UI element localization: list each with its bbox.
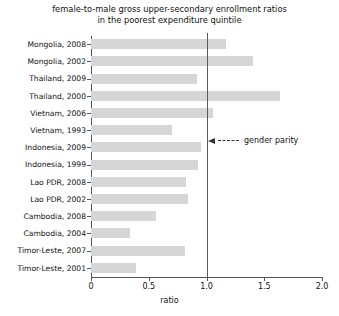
y-axis-tick (87, 216, 91, 217)
bar (91, 246, 185, 256)
y-axis-tick (87, 113, 91, 114)
dashed-leader-line (218, 140, 239, 141)
bar (91, 194, 188, 204)
bar (91, 91, 280, 101)
x-axis-tick (207, 277, 208, 281)
x-axis-tick (264, 277, 265, 281)
y-axis-tick-label: Lao PDR, 2002 (0, 195, 86, 204)
bar (91, 56, 253, 66)
bar (91, 74, 197, 84)
bar (91, 228, 130, 238)
y-axis-tick-label: Lao PDR, 2008 (0, 178, 86, 187)
chart-title-line-1: female-to-male gross upper-secondary enr… (0, 4, 339, 15)
y-axis-tick (87, 251, 91, 252)
bar (91, 39, 226, 49)
x-axis-tick-label: 1.5 (249, 282, 279, 291)
x-axis-tick-label: 0 (76, 282, 106, 291)
y-axis-tick-label: Mongolia, 2008 (0, 40, 86, 49)
x-axis-tick-label: 0.5 (134, 282, 164, 291)
x-axis-tick (322, 277, 323, 281)
bar (91, 142, 201, 152)
y-axis-tick-label: Thailand, 2000 (0, 92, 86, 101)
bar (91, 177, 186, 187)
y-axis-tick (87, 130, 91, 131)
bar (91, 125, 172, 135)
y-axis-tick-label: Cambodia, 2008 (0, 212, 86, 221)
y-axis-tick-label: Mongolia, 2002 (0, 57, 86, 66)
y-axis-tick-label: Indonesia, 2009 (0, 143, 86, 152)
y-axis-tick-label: Cambodia, 2004 (0, 229, 86, 238)
bar (91, 263, 136, 273)
y-axis-tick-label: Thailand, 2009 (0, 74, 86, 83)
x-axis-label: ratio (0, 296, 339, 305)
gender-parity-label: gender parity (244, 136, 298, 145)
y-axis-tick-label: Vietnam, 1993 (0, 126, 86, 135)
bar (91, 211, 156, 221)
x-axis-tick (91, 277, 92, 281)
y-axis-tick-label: Timor-Leste, 2001 (0, 264, 86, 273)
y-axis-tick (87, 79, 91, 80)
y-axis-tick (87, 44, 91, 45)
chart-container: female-to-male gross upper-secondary enr… (0, 0, 339, 316)
chart-title-line-2: in the poorest expenditure quintile (0, 15, 339, 26)
gender-parity-annotation: gender parity (210, 136, 298, 145)
x-axis-tick-label: 1.0 (192, 282, 222, 291)
y-axis-tick (87, 165, 91, 166)
chart-title: female-to-male gross upper-secondary enr… (0, 4, 339, 26)
y-axis-tick (87, 182, 91, 183)
x-axis-tick-label: 2.0 (307, 282, 337, 291)
bar (91, 108, 213, 118)
bar (91, 160, 198, 170)
arrow-left-icon (208, 138, 215, 144)
y-axis-tick-label: Timor-Leste, 2007 (0, 246, 86, 255)
gender-parity-reference-line (207, 33, 208, 280)
x-axis-tick (149, 277, 150, 281)
y-axis-tick (87, 147, 91, 148)
y-axis-tick (87, 96, 91, 97)
y-axis-tick (87, 268, 91, 269)
y-axis-tick (87, 199, 91, 200)
y-axis-tick (87, 61, 91, 62)
y-axis-tick-label: Indonesia, 1999 (0, 160, 86, 169)
y-axis-tick (87, 233, 91, 234)
y-axis-tick-label: Vietnam, 2006 (0, 109, 86, 118)
